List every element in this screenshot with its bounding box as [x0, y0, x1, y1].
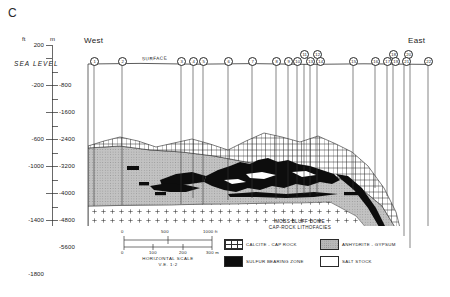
- legend-item-salt: SALT STOCK: [320, 256, 372, 267]
- legend-label-anhydrite: ANHYDRITE - GYPSUM: [342, 242, 396, 247]
- cross-section-figure: C ft m SEA LEVEL West East SURFACE: [0, 0, 450, 297]
- scale-bottom-tick-0: 0: [121, 250, 124, 255]
- sulfur-pod-2: [139, 182, 149, 185]
- sulfur-pod-4: [344, 192, 358, 195]
- legend-item-calcite: CALCITE - CAP ROCK: [224, 239, 297, 250]
- scale-bottom-tick-3: 300 m: [206, 250, 219, 255]
- calcite-cap-rock-swatch: [224, 239, 243, 250]
- scale-top-tick-0: 0: [121, 229, 124, 234]
- sulfur-bearing-zone-swatch: [224, 256, 243, 267]
- legend-title-line2: CAP-ROCK LITHOFACIES: [241, 225, 359, 231]
- scale-top-tick-2: 1000 ft: [203, 229, 218, 234]
- legend-item-anhydrite: ANHYDRITE - GYPSUM: [320, 239, 396, 250]
- legend-item-sulfur: SULFUR BEARING ZONE: [224, 256, 304, 267]
- scale-caption: HORIZONTAL SCALE V.E. 1:2: [120, 256, 216, 267]
- legend-title: MOSS BLUFF DOME CAP-ROCK LITHOFACIES: [241, 219, 359, 231]
- scale-caption-line2: V.E. 1:2: [120, 262, 216, 268]
- scale-bottom-tick-1: 100: [149, 250, 157, 255]
- geologic-cross-section: [0, 0, 450, 297]
- scale-top-tick-1: 500: [161, 229, 169, 234]
- scale-bar-graphic: [124, 236, 212, 250]
- legend-label-salt: SALT STOCK: [342, 259, 372, 264]
- legend-label-sulfur: SULFUR BEARING ZONE: [246, 259, 304, 264]
- scale-bottom-tick-2: 200: [179, 250, 187, 255]
- salt-stock-swatch: [320, 256, 339, 267]
- anhydrite-gypsum-swatch: [320, 239, 339, 250]
- sulfur-pod-1: [127, 166, 139, 170]
- sulfur-pod-3: [155, 192, 166, 195]
- legend-label-calcite: CALCITE - CAP ROCK: [246, 242, 297, 247]
